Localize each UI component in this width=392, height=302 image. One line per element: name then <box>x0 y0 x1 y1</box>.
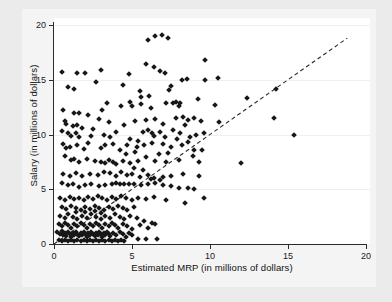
x-tick-15 <box>288 245 289 249</box>
x-tick-label-15: 15 <box>276 251 300 262</box>
x-tick-label-0: 0 <box>42 251 66 262</box>
y-axis-spine <box>53 22 54 245</box>
y-tick-0 <box>49 244 53 245</box>
y-tick-20 <box>49 25 53 26</box>
scatter-plot-figure: 05101520 05101520 Estimated MRP (in mill… <box>0 0 392 302</box>
gridline-y-20 <box>54 25 370 26</box>
y-tick-5 <box>49 189 53 190</box>
y-tick-label-0: 0 <box>24 239 46 249</box>
x-tick-20 <box>366 245 367 249</box>
x-tick-label-5: 5 <box>120 251 144 262</box>
x-tick-label-10: 10 <box>198 251 222 262</box>
x-tick-10 <box>210 245 211 249</box>
x-tick-label-20: 20 <box>354 251 378 262</box>
gridline-y-15 <box>54 80 370 81</box>
y-tick-10 <box>49 135 53 136</box>
plot-area <box>54 18 370 244</box>
x-tick-5 <box>132 245 133 249</box>
x-axis-label: Estimated MRP (in millions of dollars) <box>54 262 370 273</box>
gridline-y-5 <box>54 189 370 190</box>
gridline-y-10 <box>54 135 370 136</box>
y-axis-label: Salary (in millions of dollars) <box>28 31 39 221</box>
x-tick-0 <box>54 245 55 249</box>
y-tick-label-20: 20 <box>24 20 46 30</box>
y-tick-15 <box>49 80 53 81</box>
